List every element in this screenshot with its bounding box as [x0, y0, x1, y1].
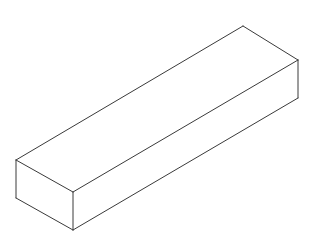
isometric-box-drawing — [0, 0, 315, 242]
drawing-canvas — [0, 0, 315, 242]
